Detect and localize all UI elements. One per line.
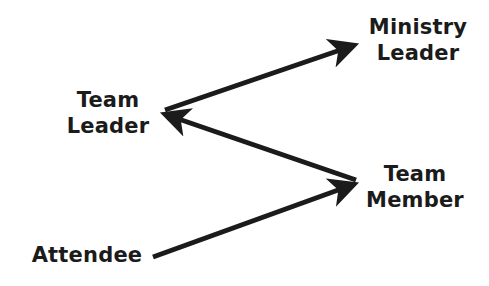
node-team-member-line1: Team <box>356 161 474 187</box>
node-attendee-line1: Attendee <box>24 242 150 268</box>
node-team-leader-line2: Leader <box>62 113 154 139</box>
node-team-member-line2: Member <box>356 187 474 213</box>
node-team-leader: Team Leader <box>62 87 154 139</box>
node-ministry-leader-line1: Ministry <box>363 14 473 40</box>
arrow-attendee-to-team-member <box>153 185 352 257</box>
node-team-member: Team Member <box>356 161 474 213</box>
arrow-team-leader-to-ministry-leader <box>165 46 352 110</box>
node-ministry-leader: Ministry Leader <box>363 14 473 66</box>
node-attendee: Attendee <box>24 242 150 268</box>
arrow-team-member-to-team-leader <box>167 115 356 180</box>
node-ministry-leader-line2: Leader <box>363 40 473 66</box>
node-team-leader-line1: Team <box>62 87 154 113</box>
